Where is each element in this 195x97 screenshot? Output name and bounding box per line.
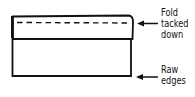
fabric-body xyxy=(13,38,132,76)
label-raw-edges: Raw edges xyxy=(161,64,186,86)
label-line: edges xyxy=(161,75,186,86)
label-fold-tacked-down: Fold tacked down xyxy=(161,7,188,40)
arrow-fold-icon xyxy=(137,21,158,27)
fold-flap xyxy=(13,16,133,40)
label-line: down xyxy=(161,29,188,40)
arrow-raw-edges-icon xyxy=(136,74,158,80)
